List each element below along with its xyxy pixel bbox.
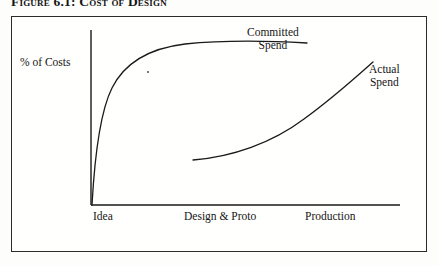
scan-speckle-artifact <box>147 71 149 73</box>
x-tick-label-design-proto: Design & Proto <box>184 210 256 222</box>
actual-spend-label-line1: Actual <box>369 63 400 76</box>
y-axis-label: % of Costs <box>20 56 70 70</box>
committed-spend-label: Committed Spend <box>247 26 299 52</box>
actual-spend-label-line2: Spend <box>369 76 400 89</box>
committed-spend-label-line2: Spend <box>247 39 299 52</box>
figure-page: Figure 6.1: Cost of Design % of Costs Co… <box>0 0 438 266</box>
x-tick-label-idea: Idea <box>93 210 113 222</box>
committed-spend-label-line1: Committed <box>247 26 299 39</box>
figure-caption: Figure 6.1: Cost of Design <box>11 0 167 10</box>
actual-spend-label: Actual Spend <box>369 63 400 89</box>
x-tick-label-production: Production <box>305 210 355 222</box>
